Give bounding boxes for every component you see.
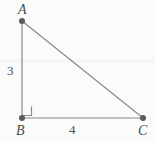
vertex-label-c: C	[138, 124, 147, 138]
vertex-label-b: B	[16, 124, 25, 138]
right-angle-marker-icon	[23, 107, 32, 116]
triangle-canvas	[0, 0, 155, 141]
side-length-label-bc: 4	[69, 123, 76, 136]
vertex-point-b	[19, 115, 25, 121]
vertex-point-a	[19, 18, 25, 24]
vertex-point-c	[140, 115, 146, 121]
side-length-label-ab: 3	[7, 64, 14, 77]
geometry-figure: A B C 3 4	[0, 0, 155, 141]
vertex-label-a: A	[18, 3, 27, 17]
edge-ac-hypotenuse-line	[22, 21, 143, 118]
